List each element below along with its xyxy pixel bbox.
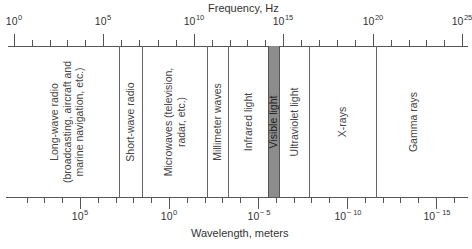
frequency-major-tick — [283, 34, 284, 46]
frequency-tick-label: 1015 — [273, 13, 294, 27]
wavelength-tick-label: 10− 15 — [424, 208, 451, 222]
region-label: Short-wave radio — [124, 82, 137, 161]
frequency-minor-tick — [426, 40, 427, 46]
frequency-major-tick — [194, 34, 195, 46]
frequency-major-tick — [373, 34, 374, 46]
frequency-minor-tick — [319, 40, 320, 46]
frequency-axis-line — [8, 46, 468, 47]
region-label: Infrared light — [242, 93, 255, 151]
region-label: Microwaves (television, radar, etc.) — [162, 68, 187, 177]
frequency-minor-tick — [337, 40, 338, 46]
wavelength-minor-tick — [383, 197, 384, 203]
frequency-minor-tick — [50, 40, 51, 46]
frequency-major-tick — [462, 34, 463, 46]
frequency-minor-tick — [247, 40, 248, 46]
region-label: X-rays — [336, 107, 349, 137]
region-divider — [309, 46, 310, 198]
frequency-minor-tick — [301, 40, 302, 46]
wavelength-tick-label: 105 — [72, 208, 88, 222]
frequency-axis-title: Frequency, Hz — [208, 2, 279, 14]
wavelength-minor-tick — [205, 197, 206, 203]
region-label: Visible light — [267, 96, 280, 149]
wavelength-tick-label: 10− 5 — [248, 208, 271, 222]
frequency-minor-tick — [121, 40, 122, 46]
frequency-tick-label: 1010 — [184, 13, 205, 27]
frequency-major-tick — [103, 34, 104, 46]
wavelength-axis-title: Wavelength, meters — [191, 227, 288, 239]
region-label: Long-wave radio (broadcasting, aircraft … — [48, 61, 86, 183]
frequency-minor-tick — [212, 40, 213, 46]
frequency-tick-label: 105 — [95, 13, 111, 27]
wavelength-minor-tick — [294, 197, 295, 203]
wavelength-minor-tick — [311, 197, 312, 203]
frequency-minor-tick — [67, 40, 68, 46]
wavelength-minor-tick — [151, 197, 152, 203]
wavelength-minor-tick — [116, 197, 117, 203]
wavelength-minor-tick — [365, 197, 366, 203]
wavelength-minor-tick — [400, 197, 401, 203]
wavelength-minor-tick — [44, 197, 45, 203]
frequency-minor-tick — [409, 40, 410, 46]
frequency-minor-tick — [32, 40, 33, 46]
region-label: Gamma rays — [407, 92, 420, 152]
wavelength-minor-tick — [27, 197, 28, 203]
region-label: Millimeter waves — [211, 83, 224, 161]
wavelength-minor-tick — [329, 197, 330, 203]
wavelength-axis-line — [6, 197, 468, 198]
wavelength-minor-tick — [133, 197, 134, 203]
frequency-major-tick — [14, 34, 15, 46]
wavelength-minor-tick — [187, 197, 188, 203]
frequency-minor-tick — [355, 40, 356, 46]
frequency-minor-tick — [158, 40, 159, 46]
frequency-tick-label: 1025 — [452, 13, 472, 27]
wavelength-minor-tick — [240, 197, 241, 203]
region-divider — [376, 46, 377, 198]
region-label: Ultraviolet light — [288, 88, 301, 157]
frequency-tick-label: 100 — [6, 13, 22, 27]
region-divider — [119, 46, 120, 198]
frequency-minor-tick — [139, 40, 140, 46]
frequency-minor-tick — [265, 40, 266, 46]
frequency-minor-tick — [391, 40, 392, 46]
frequency-minor-tick — [85, 40, 86, 46]
wavelength-minor-tick — [222, 197, 223, 203]
frequency-tick-label: 1020 — [363, 13, 384, 27]
wavelength-minor-tick — [62, 197, 63, 203]
wavelength-minor-tick — [276, 197, 277, 203]
region-divider — [207, 46, 208, 198]
wavelength-tick-label: 100 — [161, 208, 177, 222]
region-divider — [142, 46, 143, 198]
wavelength-minor-tick — [98, 197, 99, 203]
frequency-minor-tick — [176, 40, 177, 46]
wavelength-minor-tick — [418, 197, 419, 203]
frequency-minor-tick — [444, 40, 445, 46]
frequency-minor-tick — [230, 40, 231, 46]
wavelength-tick-label: 10− 10 — [335, 208, 362, 222]
wavelength-minor-tick — [454, 197, 455, 203]
region-divider — [228, 46, 229, 198]
